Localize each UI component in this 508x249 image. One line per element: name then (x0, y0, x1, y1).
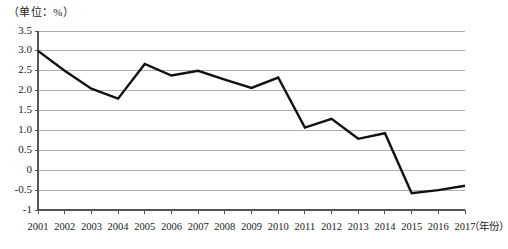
x-tick-label: 2009 (241, 221, 262, 232)
x-tick-label: 2015 (401, 221, 422, 232)
x-tick-label: 2013 (348, 221, 369, 232)
x-tick-label: 2003 (81, 221, 102, 232)
x-tick-label: 2007 (188, 221, 209, 232)
y-tick-label: 2.5 (18, 63, 32, 75)
x-tick-label: 2008 (214, 221, 235, 232)
y-tick-label: 3.5 (18, 24, 32, 36)
x-tick-label: 2012 (321, 221, 342, 232)
x-tick-label: 2005 (134, 221, 155, 232)
x-tick-label: 2004 (108, 221, 130, 232)
data-series-line (38, 51, 465, 193)
y-tick-label: -0.5 (15, 183, 33, 195)
x-tick-marks (38, 210, 465, 214)
x-tick-label: 2002 (54, 221, 75, 232)
y-tick-label: 1.5 (18, 103, 32, 115)
x-tick-label: 2016 (428, 221, 449, 232)
y-tick-label: 0.5 (18, 143, 32, 155)
y-tick-label: 0 (27, 163, 33, 175)
x-tick-label: 2001 (28, 221, 49, 232)
x-tick-label: 2010 (268, 221, 289, 232)
y-tick-label: 2.0 (18, 83, 32, 95)
x-axis-title: （年份） (469, 220, 508, 232)
y-axis-tick-labels: 3.53.02.52.01.51.00.50-0.5-1 (15, 24, 33, 215)
y-tick-label: 1.0 (18, 123, 32, 135)
x-tick-label: 2011 (295, 221, 316, 232)
x-axis-tick-labels: 2001200220032004200520062007200820092010… (28, 221, 476, 232)
y-tick-label: 3.0 (18, 43, 32, 55)
line-chart: （单位：%） 3.53.02.52.01.51.00.50-0.5-1 2001… (0, 0, 508, 249)
y-tick-label: -1 (23, 203, 32, 215)
x-tick-label: 2006 (161, 221, 182, 232)
gridlines (38, 31, 465, 210)
chart-plot-area: 3.53.02.52.01.51.00.50-0.5-1 20012002200… (0, 0, 508, 249)
x-tick-label: 2014 (374, 221, 396, 232)
